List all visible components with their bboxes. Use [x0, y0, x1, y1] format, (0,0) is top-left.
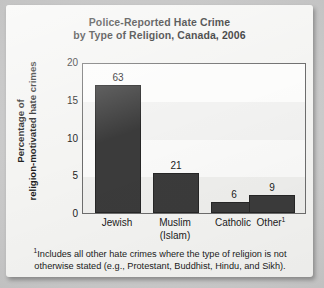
y-axis-title-line-1: Percentage of — [15, 99, 27, 162]
chart-title-line-1: Police-Reported Hate Crime — [6, 16, 313, 29]
x-label-muslim: Muslim (Islam) — [146, 217, 204, 242]
x-label-other: Other1 — [242, 217, 300, 230]
x-label-jewish-line-1: Jewish — [88, 217, 146, 230]
x-label-muslim-line-1: Muslim — [146, 217, 204, 230]
y-tick-10: 10 — [52, 134, 78, 144]
x-label-other-text: Other — [257, 217, 282, 228]
bar-slot-muslim: 21 — [153, 64, 199, 213]
y-tick-20: 20 — [52, 58, 78, 68]
bar-value-muslim: 21 — [153, 160, 199, 171]
y-tick-0: 0 — [52, 209, 78, 219]
plot-area: 63 21 6 9 — [82, 63, 306, 214]
bar-other[interactable] — [249, 195, 295, 213]
bar-value-jewish: 63 — [95, 72, 141, 83]
bar-value-other: 9 — [249, 182, 295, 193]
chart-page: Police-Reported Hate Crime by Type of Re… — [0, 0, 324, 288]
chart-footnote: 1Includes all other hate crimes where th… — [20, 249, 300, 272]
footnote-line-1-text: Includes all other hate crimes where the… — [37, 249, 286, 259]
x-label-jewish: Jewish — [88, 217, 146, 230]
y-tick-5: 5 — [52, 171, 78, 181]
x-label-other-footnote-marker: 1 — [282, 216, 286, 223]
y-axis-title: Percentage of religion-motivated hate cr… — [14, 51, 40, 211]
y-tick-15: 15 — [52, 96, 78, 106]
bar-muslim[interactable] — [153, 173, 199, 213]
footnote-line-1: 1Includes all other hate crimes where th… — [20, 249, 300, 261]
bar-jewish[interactable] — [95, 85, 141, 213]
x-label-muslim-line-2: (Islam) — [146, 230, 204, 243]
chart-title: Police-Reported Hate Crime by Type of Re… — [6, 16, 313, 41]
y-axis-title-line-2: religion-motivated hate crimes — [27, 61, 39, 200]
bar-slot-other: 9 — [249, 64, 295, 213]
bar-series: 63 21 6 9 — [83, 64, 305, 213]
x-axis-tick-labels: Jewish Muslim (Islam) Catholic Other1 — [82, 217, 306, 247]
y-axis-tick-labels: 20 15 10 5 0 — [50, 63, 78, 214]
bar-slot-jewish: 63 — [95, 64, 141, 213]
chart-card: Police-Reported Hate Crime by Type of Re… — [6, 5, 313, 277]
footnote-line-2: otherwise stated (e.g., Protestant, Budd… — [20, 261, 300, 273]
chart-title-line-2: by Type of Religion, Canada, 2006 — [6, 29, 313, 42]
x-label-other-line-1: Other1 — [242, 217, 300, 230]
